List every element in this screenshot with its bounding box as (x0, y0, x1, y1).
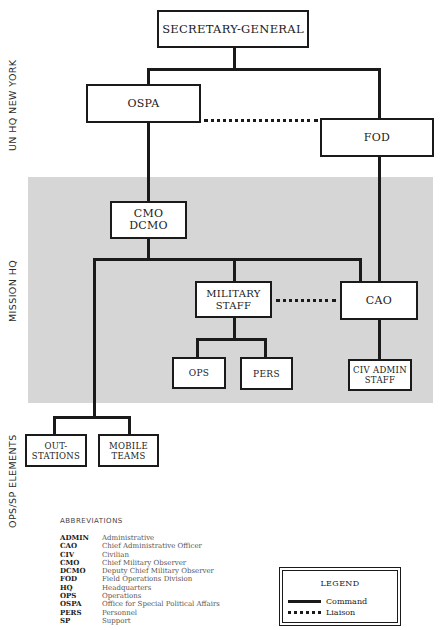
abbreviations-title: ABBREVIATIONS (60, 517, 270, 525)
command-line-ops-pers-horizontal (196, 338, 267, 341)
zone-label-un-hq: UN HQ NEW YORK (7, 60, 18, 151)
abbreviation-row: DCMODeputy Chief Military Observer (60, 567, 270, 575)
command-line-to-outstations (53, 416, 56, 435)
abbreviation-row: OPSOperations (60, 592, 270, 600)
node-ops: OPS (172, 357, 226, 389)
abbreviation-value: Civilian (102, 551, 129, 559)
node-label: OSPA (127, 98, 159, 110)
node-military-staff: MILITARY STAFF (195, 281, 272, 318)
node-label: OPS (189, 367, 210, 379)
command-line-sg-horizontal (147, 68, 381, 71)
legend-label: Command (326, 597, 367, 606)
abbreviation-row: OSPAOffice for Special Political Affairs (60, 600, 270, 608)
legend-item-liaison: Liaison (288, 608, 355, 617)
zone-label-mission-hq: MISSION HQ (7, 260, 18, 322)
node-label: MILITARY STAFF (206, 288, 260, 312)
legend-box: LEGEND Command Liaison (279, 567, 401, 626)
command-line-to-ops-sp-elements (93, 258, 96, 418)
node-label: FOD (364, 132, 390, 144)
abbreviation-row: CAOChief Administrative Officer (60, 542, 270, 550)
legend-title: LEGEND (280, 579, 400, 588)
abbreviation-value: Deputy Chief Military Observer (102, 567, 214, 575)
liaison-line-ospa-fod (204, 119, 318, 122)
dotted-line-icon (288, 611, 321, 614)
node-label: MOBILE TEAMS (109, 441, 148, 461)
command-line-to-ospa (147, 68, 150, 85)
abbreviation-row: FODField Operations Division (60, 575, 270, 583)
command-line-ops-sp-horizontal (53, 416, 131, 419)
command-line-to-ops (196, 338, 199, 358)
abbreviation-key: SP (60, 617, 102, 625)
abbreviation-row: CIVCivilian (60, 551, 270, 559)
node-label: SECRETARY-GENERAL (162, 23, 304, 35)
abbreviation-value: Office for Special Political Affairs (102, 600, 220, 608)
command-line-to-mobile-teams (128, 416, 131, 435)
abbreviation-value: Chief Military Observer (102, 559, 186, 567)
command-line-to-fod (378, 68, 381, 119)
node-label: CAO (366, 295, 392, 307)
abbreviation-value: Field Operations Division (102, 575, 192, 583)
abbreviation-value: Support (102, 617, 131, 625)
abbreviation-row: PERSPersonnel (60, 609, 270, 617)
command-line-military-staff-down (233, 317, 236, 339)
command-line-mission-horizontal (93, 258, 362, 261)
abbreviation-value: Personnel (102, 609, 137, 617)
abbreviation-row: SPSupport (60, 617, 270, 625)
node-pers: PERS (240, 357, 293, 390)
node-label: CIV ADMIN STAFF (353, 365, 407, 385)
abbreviation-row: HQHeadquarters (60, 584, 270, 592)
node-ospa: OSPA (86, 84, 201, 123)
node-label: OUT- STATIONS (32, 441, 80, 461)
node-label: PERS (253, 368, 280, 380)
abbreviation-value: Administrative (102, 534, 154, 542)
abbreviation-value: Operations (102, 592, 141, 600)
abbreviation-value: Chief Administrative Officer (102, 542, 202, 550)
legend-item-command: Command (288, 597, 367, 606)
node-label: CMO DCMO (129, 208, 168, 232)
node-outstations: OUT- STATIONS (25, 434, 87, 467)
command-line-ospa-to-cmo (147, 122, 150, 202)
abbreviation-row: ADMINAdministrative (60, 534, 270, 542)
node-civ-admin-staff: CIV ADMIN STAFF (348, 359, 412, 391)
node-mobile-teams: MOBILE TEAMS (98, 434, 159, 467)
node-secretary-general: SECRETARY-GENERAL (157, 10, 309, 48)
abbreviations-list: ABBREVIATIONS ADMINAdministrative CAOChi… (60, 517, 270, 625)
command-line-to-pers (264, 338, 267, 358)
command-line-fod-to-cao (378, 156, 381, 282)
node-fod: FOD (320, 118, 434, 157)
zone-label-ops-sp: OPS/SP ELEMENTS (7, 434, 18, 528)
command-line-sg-down (233, 47, 236, 70)
legend-label: Liaison (326, 608, 355, 617)
command-line-cao-to-civ-admin (378, 319, 381, 360)
liaison-line-military-staff-cao (276, 299, 336, 302)
node-cao: CAO (340, 281, 418, 320)
solid-line-icon (288, 600, 321, 603)
abbreviation-value: Headquarters (102, 584, 151, 592)
command-line-to-cao (359, 258, 362, 282)
node-cmo-dcmo: CMO DCMO (110, 201, 187, 239)
abbreviation-row: CMOChief Military Observer (60, 559, 270, 567)
command-line-to-military-staff (233, 258, 236, 282)
